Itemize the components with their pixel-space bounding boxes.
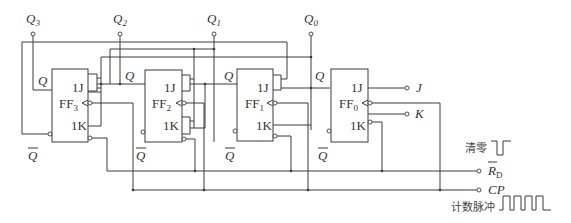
ff2-k-label: 1K bbox=[163, 118, 180, 133]
ff3-j-and bbox=[88, 74, 110, 91]
ff0-qbar-label: Q bbox=[318, 148, 328, 163]
ff0-j-label: 1J bbox=[351, 80, 363, 95]
j-input-label: J bbox=[416, 80, 423, 95]
q0-label: Q0 bbox=[304, 11, 318, 28]
ff0-q-label: Q bbox=[315, 68, 325, 83]
rd-label: RD bbox=[487, 163, 503, 180]
q3-label: Q3 bbox=[26, 11, 40, 28]
count-pulse-icon bbox=[499, 196, 551, 210]
ff1-k-label: 1K bbox=[256, 118, 273, 133]
ff2-q-label: Q bbox=[125, 68, 135, 83]
ff3-qbar-bubble bbox=[48, 132, 52, 136]
count-pulse-label: 计数脉冲 bbox=[451, 200, 495, 214]
q1-terminal[interactable] bbox=[212, 32, 216, 36]
ff0-rd-bubble bbox=[368, 120, 372, 124]
wire-qbar3-fb bbox=[22, 42, 50, 134]
wire-ff3-k bbox=[88, 92, 101, 126]
ff0-k-label: 1K bbox=[350, 118, 367, 133]
wire-ff3-clk bbox=[92, 103, 133, 190]
ff2-qbar-label: Q bbox=[136, 148, 146, 163]
q1-label: Q1 bbox=[207, 11, 221, 28]
wire-ff1-rd bbox=[277, 136, 291, 171]
clear-pulse-icon bbox=[491, 141, 511, 155]
q3-terminal[interactable] bbox=[31, 32, 35, 36]
ff2-j-label: 1J bbox=[164, 80, 176, 95]
cp-terminal[interactable] bbox=[477, 188, 481, 192]
ff3-k-label: 1K bbox=[71, 118, 88, 133]
q0-terminal[interactable] bbox=[309, 32, 313, 36]
ff3-qbar-label: Q bbox=[28, 148, 38, 163]
ff1-q-label: Q bbox=[224, 68, 234, 83]
ff3-clk-bubble bbox=[88, 101, 92, 105]
rd-terminal[interactable] bbox=[477, 169, 481, 173]
q2-terminal[interactable] bbox=[118, 32, 122, 36]
wire-ff0-rd bbox=[372, 122, 382, 171]
ff1-qbar-bubble bbox=[233, 129, 237, 133]
ff3-q-label: Q bbox=[38, 73, 48, 88]
ff0-qbar-bubble bbox=[327, 129, 331, 133]
ff3-rd-bubble bbox=[88, 136, 92, 140]
ff3-j-label: 1J bbox=[72, 80, 84, 95]
k-input-label: K bbox=[414, 106, 425, 121]
q2-label: Q2 bbox=[113, 11, 127, 28]
jk-counter-circuit: Q3 Q2 Q1 Q0 1J FF3 1K Q Q 1J FF2 1K Q Q … bbox=[0, 0, 571, 223]
ff2-clk-bubble bbox=[182, 101, 186, 105]
cp-label: CP bbox=[488, 182, 505, 197]
ff2-rd-bubble bbox=[182, 137, 186, 141]
wire-ff3-rd bbox=[92, 138, 107, 171]
ff1-rd-bubble bbox=[273, 134, 277, 138]
j-terminal[interactable] bbox=[405, 86, 409, 90]
wire-ff2-rd bbox=[186, 139, 195, 171]
ff2-qbar-bubble bbox=[141, 130, 145, 134]
ff1-j-label: 1J bbox=[257, 80, 269, 95]
clear-label: 清零 bbox=[465, 142, 487, 155]
k-terminal[interactable] bbox=[405, 112, 409, 116]
ff1-clk-bubble bbox=[273, 101, 277, 105]
ff1-qbar-label: Q bbox=[225, 148, 235, 163]
ff0-clk-bubble bbox=[368, 101, 372, 105]
wire-ff1-clk bbox=[277, 103, 308, 190]
